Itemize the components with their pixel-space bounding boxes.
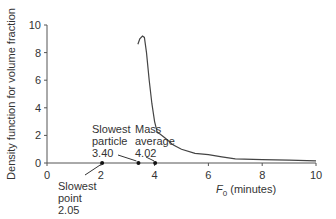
- annotation-point: [136, 161, 140, 165]
- annotation-point: [153, 161, 157, 165]
- y-tick-label: 8: [35, 47, 41, 59]
- annotation-label: Slowest: [92, 123, 131, 135]
- annotation-point: [100, 161, 104, 165]
- y-tick-label: 10: [29, 19, 41, 31]
- x-tick-label: 6: [205, 169, 211, 181]
- y-tick-label: 6: [35, 74, 41, 86]
- x-axis-label: F0 (minutes): [216, 183, 276, 198]
- annotation-label: average: [135, 135, 175, 147]
- x-tick-label: 10: [310, 169, 322, 181]
- annotation-label: 3.40: [92, 147, 113, 159]
- x-tick-label: 2: [98, 169, 104, 181]
- annotation-label: 2.05: [58, 204, 79, 216]
- y-axis-label: Density function for volume fraction: [5, 8, 17, 180]
- annotation-label: point: [58, 192, 82, 204]
- x-tick-label: 4: [152, 169, 158, 181]
- y-tick-label: 0: [35, 157, 41, 169]
- y-tick-label: 4: [35, 102, 41, 114]
- annotation-label: Mass: [135, 123, 162, 135]
- chart: 0246810 0246810 Density function for vol…: [0, 0, 336, 219]
- x-label-rest: (minutes): [227, 183, 276, 195]
- x-ticks: 0246810: [44, 163, 322, 181]
- annotation-label: 4.02: [135, 147, 156, 159]
- annotation-label: particle: [92, 135, 127, 147]
- annotation-label: Slowest: [58, 180, 97, 192]
- y-tick-label: 2: [35, 129, 41, 141]
- y-ticks: 0246810: [29, 19, 47, 169]
- annotation-arrow: [118, 155, 136, 161]
- x-tick-label: 8: [259, 169, 265, 181]
- x-tick-label: 0: [44, 169, 50, 181]
